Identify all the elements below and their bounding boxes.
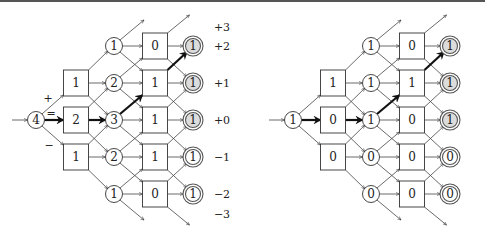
final-state: 1 [440, 73, 460, 93]
edge-arrow [89, 96, 109, 115]
row-label: +2 [214, 40, 230, 53]
box-node: 0 [400, 144, 425, 170]
edge-arrow [89, 125, 109, 144]
final-value: 1 [446, 39, 454, 53]
start-state: 4 [28, 112, 45, 129]
edge-arrow [377, 58, 400, 77]
state-node: 3 [106, 112, 123, 129]
edge-arrow [346, 88, 366, 107]
edge-out-top [425, 15, 447, 33]
state-value: 3 [110, 113, 118, 127]
box-value: 0 [408, 39, 416, 53]
box-value: 0 [329, 150, 337, 164]
box-value: 1 [151, 113, 159, 127]
edge-arrow [120, 132, 143, 151]
edge-arrow [346, 133, 366, 152]
box-node: 1 [321, 70, 346, 96]
final-state: 1 [440, 110, 460, 130]
final-state: 1 [183, 147, 203, 167]
final-state: 1 [183, 36, 203, 56]
edge-arrow [120, 169, 143, 188]
edge-minus [299, 126, 321, 145]
edge-arrow [168, 163, 188, 181]
state-value: 1 [110, 39, 118, 53]
edge-arrow [168, 126, 188, 144]
final-state: 1 [183, 73, 203, 93]
state-node: 1 [363, 112, 380, 129]
edge-arrow [377, 132, 400, 151]
state-value: 0 [367, 150, 375, 164]
box-value: 0 [408, 150, 416, 164]
edge-arrow [346, 96, 366, 115]
box-value: 2 [72, 113, 80, 127]
final-state: 1 [440, 36, 460, 56]
state-value: 1 [110, 187, 118, 201]
edge-arrow [377, 163, 400, 182]
final-value: 0 [446, 150, 454, 164]
state-node: 0 [363, 186, 380, 203]
edge-arrow [168, 170, 188, 188]
start-state: 1 [285, 112, 302, 129]
row-label: −2 [214, 188, 230, 201]
state-value: 2 [110, 150, 118, 164]
box-value: 0 [151, 39, 159, 53]
edge-arrow [425, 163, 445, 181]
edge-out-bottom [377, 200, 401, 220]
final-value: 1 [189, 76, 197, 90]
transition-label-equal: = [46, 107, 55, 120]
edge-arrow [425, 126, 445, 144]
trellis-diagrams: 41211232101110111111100111000100011100 +… [0, 0, 485, 233]
transition-label-plus: + [43, 92, 52, 105]
edge-out-top [168, 15, 190, 33]
path-arrow [120, 95, 143, 114]
box-node: 0 [143, 33, 168, 59]
state-value: 2 [110, 76, 118, 90]
box-node: 0 [321, 107, 346, 133]
final-value: 1 [446, 113, 454, 127]
edge-arrow [377, 52, 400, 71]
state-value: 1 [289, 113, 297, 127]
edge-arrow [346, 125, 366, 144]
state-node: 1 [363, 38, 380, 55]
row-label: −1 [214, 151, 230, 164]
final-value: 1 [446, 76, 454, 90]
box-node: 1 [143, 107, 168, 133]
state-node: 1 [106, 38, 123, 55]
state-node: 2 [106, 75, 123, 92]
edge-arrow [425, 89, 445, 107]
state-node: 1 [106, 186, 123, 203]
final-value: 1 [189, 187, 197, 201]
box-node: 0 [400, 107, 425, 133]
edge-plus [299, 95, 321, 114]
edge-arrow [89, 51, 109, 70]
box-value: 0 [408, 187, 416, 201]
state-value: 1 [367, 113, 375, 127]
edge-arrow [120, 58, 143, 77]
edge-out-top [377, 20, 401, 40]
row-label: +1 [214, 77, 230, 90]
state-value: 1 [367, 39, 375, 53]
path-arrow [168, 52, 188, 70]
state-node: 2 [106, 149, 123, 166]
state-node: 1 [363, 75, 380, 92]
box-value: 1 [72, 76, 80, 90]
box-value: 1 [408, 76, 416, 90]
box-value: 1 [151, 76, 159, 90]
edge-arrow [120, 126, 143, 145]
box-node: 0 [400, 181, 425, 207]
edge-arrow [346, 51, 366, 70]
row-label: +3 [214, 21, 230, 34]
edge-arrow [425, 133, 445, 151]
box-value: 1 [72, 150, 80, 164]
row-label: +0 [214, 114, 230, 127]
box-node: 2 [64, 107, 89, 133]
edge-arrow [346, 170, 366, 189]
edge-out-top [120, 20, 144, 40]
box-value: 0 [408, 113, 416, 127]
row-label: −3 [214, 208, 230, 221]
edge-arrow [425, 96, 445, 114]
final-value: 1 [189, 113, 197, 127]
state-node: 0 [363, 149, 380, 166]
edge-arrow [120, 52, 143, 71]
final-state: 1 [183, 184, 203, 204]
